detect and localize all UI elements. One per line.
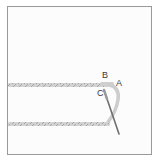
lower-thread xyxy=(8,122,110,126)
point-label-a: A xyxy=(116,79,122,88)
point-label-b: B xyxy=(102,71,108,80)
point-label-c: C xyxy=(97,89,104,98)
stitch-illustration xyxy=(0,0,158,160)
upper-thread xyxy=(8,82,114,87)
